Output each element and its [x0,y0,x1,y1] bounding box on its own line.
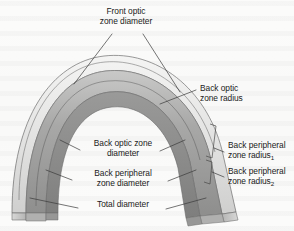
lens-artwork-layer [0,0,294,231]
label-line-2: zone diameter [84,16,168,26]
label-line-1: Back optic zone [62,138,184,148]
lens-cross-section-svg [0,0,294,231]
label-back-peripheral-zone-radius-2: Back peripheral zone radius2 [228,166,294,187]
lens-left-flank [12,213,58,221]
label-line-2-text: zone radius [228,176,271,186]
label-line-1: Back peripheral [228,140,294,150]
label-line-1: Back optic [200,83,286,93]
label-line-1: Back peripheral [228,166,294,176]
label-line-2: zone radius1 [228,150,294,160]
label-back-peripheral-zone-diameter: Back peripheral zone diameter [62,168,184,189]
label-line-2: zone radius [200,93,286,103]
lens-diagram-figure: Front optic zone diameter Back optic zon… [0,0,294,231]
label-total-diameter: Total diameter [62,199,184,209]
label-line-2: diameter [62,148,184,158]
label-line-2-text: zone radius [228,150,271,160]
label-back-peripheral-zone-radius-1: Back peripheral zone radius1 [228,140,294,161]
label-line-2: zone radius2 [228,176,294,186]
label-line-1: Front optic [84,6,168,16]
label-line-1: Total diameter [62,199,184,209]
label-line-2: zone diameter [62,178,184,188]
label-back-optic-zone-diameter: Back optic zone diameter [62,138,184,159]
label-line-1: Back peripheral [62,168,184,178]
subscript-2: 2 [271,180,274,187]
label-back-optic-zone-radius: Back optic zone radius [200,83,286,104]
subscript-1: 1 [271,154,274,161]
label-front-optic-zone-diameter: Front optic zone diameter [84,6,168,27]
